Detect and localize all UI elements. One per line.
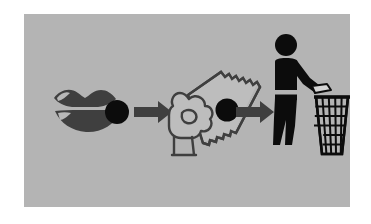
arrow-step1-to-step2	[134, 101, 172, 123]
hand-wrist-cuff	[172, 137, 196, 155]
person-legs	[273, 98, 297, 145]
screenshot-root	[0, 0, 371, 224]
hand-thumb	[182, 110, 197, 123]
step-dispose-in-bin	[273, 34, 350, 154]
person-waist-band	[274, 90, 298, 95]
tablet-circle-sachet	[216, 99, 239, 122]
illustration-panel	[24, 14, 350, 207]
litter-piece	[312, 84, 331, 93]
person-head	[275, 34, 297, 56]
tablet-circle-mouth	[105, 100, 129, 124]
arrow-1-shape	[134, 101, 172, 123]
step-lips-with-tablet	[54, 90, 129, 132]
pictogram-diagram	[24, 14, 350, 207]
